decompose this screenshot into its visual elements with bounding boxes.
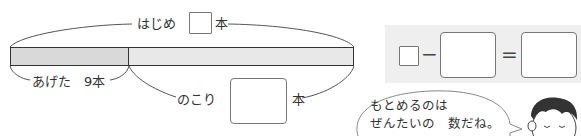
boy-character-icon bbox=[522, 96, 581, 136]
tape-left-part bbox=[10, 47, 129, 66]
start-answer-box[interactable] bbox=[189, 12, 212, 34]
speech-bubble-text: もとめるのは ぜんたいの 数だね。 bbox=[370, 97, 500, 133]
tape-right-part bbox=[128, 47, 354, 66]
equation-result-box[interactable] bbox=[521, 32, 577, 78]
equation-first-term-box[interactable] bbox=[399, 46, 419, 66]
given-label: あげた bbox=[32, 74, 71, 90]
speech-line-1: もとめるのは bbox=[370, 97, 500, 115]
start-label: はじめ bbox=[137, 16, 176, 32]
start-unit: 本 bbox=[215, 16, 228, 32]
remaining-label: のこり bbox=[177, 92, 216, 108]
equals-sign: = bbox=[501, 44, 518, 64]
speech-line-2: ぜんたいの 数だね。 bbox=[370, 115, 500, 133]
remaining-unit: 本 bbox=[292, 92, 305, 108]
tape-bar bbox=[10, 47, 354, 66]
equation-panel: − = bbox=[385, 25, 581, 83]
equation-second-term-box[interactable] bbox=[440, 32, 496, 78]
given-value: 9本 bbox=[84, 74, 105, 90]
remaining-answer-box[interactable] bbox=[230, 78, 287, 124]
minus-sign: − bbox=[421, 44, 438, 64]
